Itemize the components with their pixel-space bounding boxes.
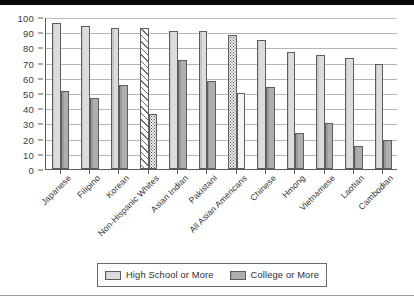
bar-college bbox=[178, 60, 187, 169]
x-axis-labels: JapaneseFilipinoKoreanNon-Hispanic White… bbox=[45, 173, 397, 243]
x-axis-label-chinese: Chinese bbox=[248, 173, 278, 203]
y-tick-mark-50 bbox=[38, 94, 43, 95]
x-axis-label-filipino: Filipino bbox=[75, 173, 102, 200]
y-tick-mark-30 bbox=[38, 124, 43, 125]
bar-group bbox=[316, 18, 334, 169]
bar-college bbox=[325, 123, 334, 169]
bar-group bbox=[111, 18, 129, 169]
bar-group bbox=[375, 18, 393, 169]
bar-chart-figure: 0102030405060708090100 JapaneseFilipinoK… bbox=[0, 5, 414, 295]
x-axis-label-korean: Korean bbox=[104, 173, 131, 200]
y-tick-mark-40 bbox=[38, 109, 43, 110]
legend-item: High School or More bbox=[105, 270, 214, 280]
y-tick-mark-70 bbox=[38, 63, 43, 64]
y-tick-mark-20 bbox=[38, 139, 43, 140]
bar-group bbox=[169, 18, 187, 169]
y-tick-label-80: 80 bbox=[23, 43, 34, 54]
bar-group bbox=[52, 18, 70, 169]
y-tick-mark-80 bbox=[38, 48, 43, 49]
legend-label: College or More bbox=[251, 270, 319, 280]
y-tick-label-100: 100 bbox=[18, 13, 34, 24]
bar-high-school bbox=[287, 52, 296, 169]
y-tick-label-50: 50 bbox=[23, 89, 34, 100]
bar-college bbox=[119, 85, 128, 169]
legend-swatch-icon bbox=[105, 271, 121, 280]
bar-college bbox=[90, 98, 99, 169]
bar-high-school bbox=[345, 58, 354, 169]
y-tick-label-10: 10 bbox=[23, 149, 34, 160]
bar-college bbox=[149, 114, 158, 169]
chart-legend: High School or MoreCollege or More bbox=[97, 263, 327, 287]
bar-group bbox=[81, 18, 99, 169]
bar-high-school bbox=[169, 31, 178, 169]
bar-college bbox=[383, 140, 392, 169]
x-axis-label-japanese: Japanese bbox=[39, 173, 73, 207]
legend-swatch-icon bbox=[230, 271, 246, 280]
bar-college bbox=[237, 93, 246, 169]
bar-high-school bbox=[140, 28, 149, 169]
bars-layer bbox=[46, 18, 397, 169]
y-axis: 0102030405060708090100 bbox=[0, 18, 43, 170]
y-tick-label-40: 40 bbox=[23, 104, 34, 115]
bar-high-school bbox=[199, 31, 208, 169]
y-tick-mark-90 bbox=[38, 33, 43, 34]
x-axis-label-laotian: Laotian bbox=[339, 173, 367, 201]
bar-group bbox=[345, 18, 363, 169]
bar-high-school bbox=[81, 26, 90, 169]
bar-group bbox=[287, 18, 305, 169]
x-axis-label-hmong: Hmong bbox=[280, 173, 307, 200]
bar-high-school bbox=[375, 64, 384, 169]
bar-high-school bbox=[316, 55, 325, 169]
bar-high-school bbox=[228, 35, 237, 169]
y-tick-mark-60 bbox=[38, 78, 43, 79]
bar-group bbox=[228, 18, 246, 169]
bar-college bbox=[266, 87, 275, 169]
bar-high-school bbox=[52, 23, 61, 169]
x-axis-label-all-asian-americans: All Asian Americans bbox=[187, 173, 249, 235]
y-tick-label-60: 60 bbox=[23, 73, 34, 84]
bar-high-school bbox=[257, 40, 266, 169]
bar-group bbox=[257, 18, 275, 169]
legend-item: College or More bbox=[230, 270, 319, 280]
y-tick-mark-0 bbox=[38, 170, 43, 171]
y-tick-mark-10 bbox=[38, 154, 43, 155]
bar-college bbox=[207, 81, 216, 169]
y-tick-label-90: 90 bbox=[23, 28, 34, 39]
y-tick-label-20: 20 bbox=[23, 134, 34, 145]
plot-area bbox=[45, 18, 397, 170]
y-tick-mark-100 bbox=[38, 18, 43, 19]
bar-high-school bbox=[111, 28, 120, 169]
y-tick-label-30: 30 bbox=[23, 119, 34, 130]
page-bottom-rule bbox=[0, 295, 414, 296]
legend-label: High School or More bbox=[126, 270, 214, 280]
bar-group bbox=[199, 18, 217, 169]
bar-group bbox=[140, 18, 158, 169]
bar-college bbox=[295, 133, 304, 169]
bar-college bbox=[354, 146, 363, 169]
y-tick-label-0: 0 bbox=[29, 165, 34, 176]
y-tick-label-70: 70 bbox=[23, 58, 34, 69]
bar-college bbox=[61, 91, 70, 169]
